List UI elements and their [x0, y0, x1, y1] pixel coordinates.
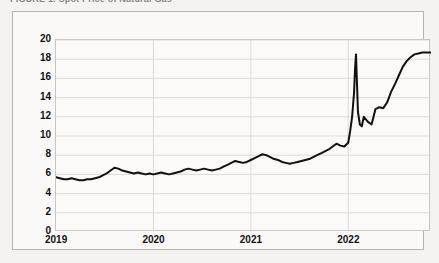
- y-tick-label: 4: [17, 188, 51, 198]
- y-tick-label: 20: [17, 34, 51, 44]
- y-tick-label: 12: [17, 111, 51, 121]
- y-tick-label: 10: [17, 130, 51, 140]
- horizontal-gridlines: [56, 40, 431, 213]
- plot-svg: [56, 40, 431, 232]
- x-tick-label: 2021: [240, 234, 262, 245]
- y-tick-label: 14: [17, 92, 51, 102]
- y-tick-label: 16: [17, 72, 51, 82]
- figure-frame: 20181614121086420 2019202020212022: [12, 11, 424, 250]
- x-axis: 2019202020212022: [13, 234, 425, 252]
- x-tick-label: 2019: [45, 234, 67, 245]
- chart-figure: FIGURE 1. Spot Price of Natural Gas 2018…: [0, 0, 439, 263]
- figure-title: FIGURE 1. Spot Price of Natural Gas: [10, 0, 270, 4]
- plot-area: [55, 39, 430, 231]
- y-tick-label: 8: [17, 149, 51, 159]
- x-tick-label: 2022: [337, 234, 359, 245]
- y-tick-label: 18: [17, 53, 51, 63]
- y-axis: 20181614121086420: [13, 12, 51, 251]
- y-tick-label: 2: [17, 207, 51, 217]
- y-tick-label: 6: [17, 168, 51, 178]
- x-tick-label: 2020: [142, 234, 164, 245]
